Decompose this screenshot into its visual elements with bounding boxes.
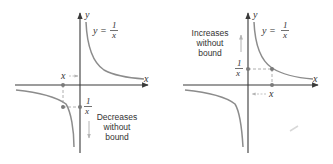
svg-text:1: 1 — [86, 96, 91, 106]
curve-branch-negative — [185, 90, 243, 147]
curve-point — [61, 105, 65, 109]
svg-text:y =: y = — [261, 25, 276, 36]
x-point — [270, 83, 274, 87]
svg-text:x: x — [111, 30, 116, 40]
recip-point — [246, 67, 250, 71]
svg-text:1: 1 — [237, 58, 242, 68]
svg-text:y =: y = — [92, 25, 107, 36]
recip-point — [78, 105, 82, 109]
reciprocal-function-diagram: y x y = 1 x x 1 x Decreas — [0, 0, 333, 164]
curve-branch-negative — [16, 90, 74, 147]
svg-text:1: 1 — [112, 20, 117, 30]
svg-text:x: x — [84, 106, 89, 116]
right-panel: y x y = 1 x x 1 x Increases — [183, 9, 318, 153]
svg-text:without: without — [196, 38, 225, 48]
recip-label: 1 x — [235, 58, 243, 78]
left-panel: y x y = 1 x x 1 x Decreas — [15, 9, 149, 153]
y-axis-label: y — [84, 9, 90, 20]
function-label: y = 1 x — [92, 20, 118, 40]
scan-artifact — [290, 126, 298, 131]
svg-text:Increases: Increases — [192, 28, 229, 38]
svg-text:x: x — [235, 68, 240, 78]
function-label: y = 1 x — [261, 20, 289, 40]
svg-text:bound: bound — [198, 48, 222, 58]
x-point — [61, 83, 65, 87]
increases-annotation: Increases without bound — [192, 28, 229, 58]
curve-point — [270, 67, 274, 71]
y-axis-label: y — [252, 9, 258, 20]
svg-text:1: 1 — [283, 20, 288, 30]
decreases-annotation: Decreases without bound — [97, 112, 138, 142]
x-point-label: x — [268, 88, 274, 99]
x-point-label: x — [60, 70, 66, 81]
svg-text:without: without — [103, 122, 132, 132]
svg-text:bound: bound — [105, 132, 129, 142]
recip-label: 1 x — [84, 96, 92, 116]
svg-text:Decreases: Decreases — [97, 112, 138, 122]
svg-text:x: x — [282, 30, 287, 40]
